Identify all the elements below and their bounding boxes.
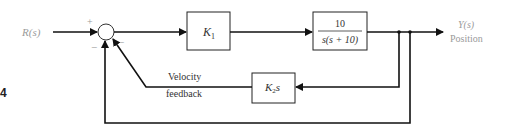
plus-sign: + bbox=[87, 16, 93, 27]
plant-denominator: s(s + 10) bbox=[322, 34, 359, 46]
velocity-feedback-label: K2s bbox=[264, 81, 280, 95]
velocity-annotation-line1: Velocity bbox=[168, 71, 201, 82]
minus-sign-outer: − bbox=[91, 41, 97, 53]
output-label: Y(s) bbox=[458, 19, 475, 31]
block-diagram: R(s) + − − K1 10 s(s + 10) Y(s) Position… bbox=[0, 0, 509, 132]
velocity-annotation-line2: feedback bbox=[166, 88, 202, 99]
summing-junction bbox=[98, 24, 114, 40]
plant-numerator: 10 bbox=[335, 18, 345, 29]
minus-sign-inner: − bbox=[118, 36, 124, 48]
figure-number: 4 bbox=[0, 86, 7, 100]
output-sublabel: Position bbox=[450, 33, 483, 44]
input-label: R(s) bbox=[21, 26, 41, 39]
